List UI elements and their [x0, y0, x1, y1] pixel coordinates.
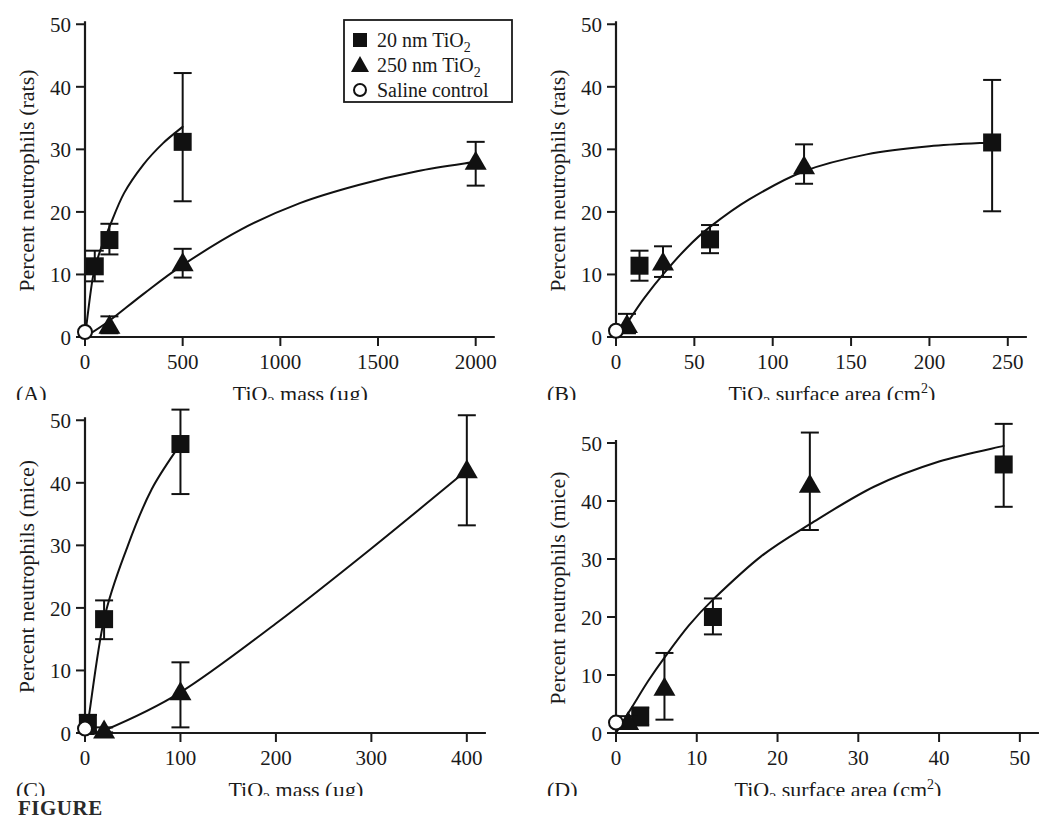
marker-square [86, 257, 104, 275]
panel-c-svg: 010020030040001020304050Percent neutroph… [0, 396, 531, 796]
marker-triangle [172, 252, 194, 271]
y-tick-label: 20 [50, 201, 71, 225]
marker-square [701, 230, 719, 248]
legend-label: Saline control [377, 79, 489, 101]
y-axis-title: Percent neutrophils (mice) [14, 460, 39, 693]
y-tick-label: 30 [581, 548, 602, 572]
x-tick-label: 150 [835, 350, 867, 374]
x-tick-label: 0 [611, 350, 622, 374]
marker-triangle [793, 155, 815, 174]
panel-label: (D) [547, 777, 578, 796]
x-tick-label: 100 [165, 746, 197, 770]
x-tick-label: 500 [167, 350, 199, 374]
y-tick-label: 40 [581, 490, 602, 514]
marker-square [704, 608, 722, 626]
x-tick-label: 1000 [259, 350, 301, 374]
y-axis-title: Percent neutrophils (rats) [545, 69, 570, 291]
fit-curve [85, 444, 180, 734]
x-axis-title: TiO2 mass (µg) [228, 777, 363, 796]
series-filled-square [86, 73, 192, 281]
marker-triangle [465, 151, 487, 170]
y-tick-label: 0 [592, 722, 603, 746]
y-axis-ticks: 01020304050 [581, 13, 616, 350]
x-tick-label: 30 [848, 746, 869, 770]
x-tick-label: 2000 [455, 350, 497, 374]
y-tick-label: 10 [581, 263, 602, 287]
panel-d-svg: 0102030405001020304050Percent neutrophil… [531, 396, 1062, 796]
figure-container: 050010001500200001020304050Percent neutr… [0, 0, 1062, 820]
y-tick-label: 40 [50, 76, 71, 100]
x-axis-title: TiO2 surface area (cm2) [735, 777, 942, 796]
panel-label: (C) [16, 777, 45, 796]
marker-square [100, 231, 118, 249]
x-tick-label: 0 [611, 746, 622, 770]
x-tick-label: 0 [80, 350, 91, 374]
series-open-circle [609, 324, 623, 338]
marker-square [171, 435, 189, 453]
x-axis-ticks: 050100150200250 [611, 337, 1024, 374]
fit-curve [85, 127, 183, 337]
legend: 20 nm TiO2250 nm TiO2Saline control [344, 20, 512, 102]
series-open-circle [609, 716, 623, 730]
marker-square [174, 133, 192, 151]
x-tick-label: 0 [80, 746, 91, 770]
marker-triangle [98, 315, 120, 334]
marker-square [631, 257, 649, 275]
marker-triangle [652, 252, 674, 271]
y-tick-label: 20 [50, 597, 71, 621]
y-tick-label: 40 [581, 76, 602, 100]
series-filled-square [631, 80, 1002, 281]
y-tick-label: 30 [581, 138, 602, 162]
y-tick-label: 10 [50, 263, 71, 287]
series-filled-triangle [617, 433, 821, 730]
x-tick-label: 200 [260, 746, 292, 770]
y-axis-title: Percent neutrophils (mice) [545, 471, 570, 704]
x-axis-ticks: 0100200300400 [80, 733, 483, 770]
panel-c-chart: 010020030040001020304050Percent neutroph… [0, 396, 531, 796]
fit-curve [85, 162, 476, 337]
y-tick-label: 20 [581, 201, 602, 225]
y-tick-label: 0 [592, 326, 603, 350]
series-filled-triangle [98, 142, 486, 334]
x-tick-label: 50 [684, 350, 705, 374]
marker-triangle [169, 681, 191, 700]
marker-triangle [653, 677, 675, 696]
x-tick-label: 200 [914, 350, 946, 374]
marker-square [95, 610, 113, 628]
x-tick-label: 100 [757, 350, 789, 374]
y-tick-label: 10 [50, 659, 71, 683]
series-open-circle [78, 325, 92, 339]
panel-b-chart: 05010015020025001020304050Percent neutro… [531, 0, 1062, 400]
y-tick-label: 30 [50, 534, 71, 558]
y-tick-label: 50 [50, 13, 71, 37]
x-tick-label: 1500 [357, 350, 399, 374]
marker-triangle [456, 459, 478, 478]
x-tick-label: 50 [1009, 746, 1030, 770]
y-tick-label: 40 [50, 472, 71, 496]
y-tick-label: 50 [581, 13, 602, 37]
x-tick-label: 40 [929, 746, 950, 770]
y-tick-label: 50 [50, 409, 71, 433]
marker-open-circle [78, 325, 92, 339]
figure-caption: FIGURE [0, 800, 1062, 820]
panel-a-svg: 050010001500200001020304050Percent neutr… [0, 0, 531, 400]
y-tick-label: 30 [50, 138, 71, 162]
y-tick-label: 10 [581, 664, 602, 688]
marker-triangle [799, 474, 821, 493]
panel-d-chart: 0102030405001020304050Percent neutrophil… [531, 396, 1062, 796]
series-filled-square [79, 410, 190, 732]
x-tick-label: 10 [686, 746, 707, 770]
y-axis-ticks: 01020304050 [581, 432, 616, 746]
series-filled-triangle [93, 415, 478, 738]
y-tick-label: 20 [581, 606, 602, 630]
marker-open-circle [609, 324, 623, 338]
x-tick-label: 400 [451, 746, 483, 770]
x-tick-label: 250 [992, 350, 1024, 374]
x-tick-label: 300 [356, 746, 388, 770]
figure-caption-text: FIGURE [18, 800, 103, 820]
series-filled-square [631, 424, 1012, 726]
axes [85, 418, 485, 733]
y-axis-ticks: 01020304050 [50, 13, 85, 350]
marker-open-circle [609, 716, 623, 730]
legend-marker-open-circle [354, 84, 366, 96]
